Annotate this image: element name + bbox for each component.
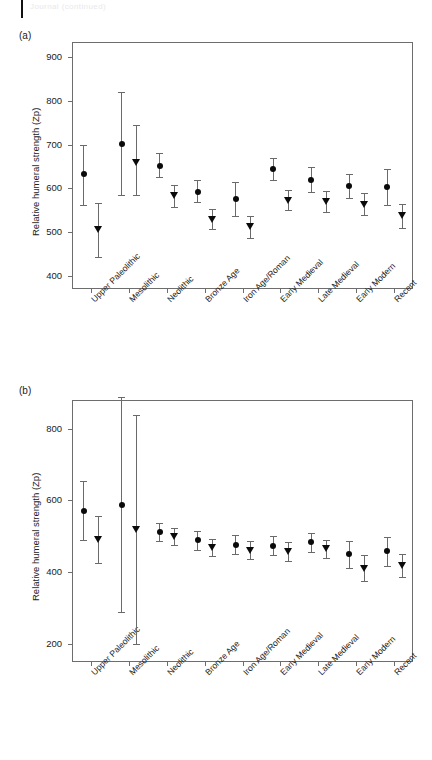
error-bar-cap-female [323, 540, 330, 541]
y-axis-tick-label: 200 [28, 638, 62, 649]
data-point-female-marker [360, 201, 368, 208]
error-bar-cap-female [361, 215, 368, 216]
panel-a-label: (a) [19, 30, 31, 41]
error-bar-cap-female [361, 555, 368, 556]
y-axis-tick-label: 600 [28, 182, 62, 193]
data-point-male-marker [81, 508, 87, 514]
error-bar-cap-female [247, 559, 254, 560]
error-bar-cap-female [285, 210, 292, 211]
x-axis-tick-mark [205, 289, 206, 293]
triangle-inner-fill [327, 552, 333, 556]
error-bar-cap-male [346, 568, 353, 569]
error-bar-cap-female [361, 581, 368, 582]
x-axis-tick-mark [243, 662, 244, 666]
y-axis-tick-label: 900 [28, 51, 62, 62]
data-point-female-marker [94, 536, 102, 543]
error-bar-cap-female [209, 539, 216, 540]
error-bar-cap-male [308, 167, 315, 168]
triangle-inner-fill [176, 199, 182, 203]
y-axis-tick-mark [68, 188, 72, 189]
y-axis-tick-mark [68, 232, 72, 233]
y-axis-tick-mark [68, 644, 72, 645]
triangle-inner-fill [365, 572, 371, 576]
error-bar-cap-male [232, 182, 239, 183]
triangle-inner-fill [214, 223, 220, 227]
y-axis-tick-label: 500 [28, 226, 62, 237]
triangle-inner-fill [100, 543, 106, 547]
y-axis-tick-label: 700 [28, 139, 62, 150]
error-bar-cap-female [285, 542, 292, 543]
triangle-inner-fill [138, 166, 144, 170]
data-point-male-marker [195, 537, 201, 543]
triangle-inner-fill [289, 204, 295, 208]
data-point-female-marker [170, 192, 178, 199]
y-axis-tick-mark [68, 429, 72, 430]
error-bar-cap-female [209, 556, 216, 557]
triangle-inner-fill [252, 230, 258, 234]
error-bar-cap-female [171, 185, 178, 186]
y-axis-tick-mark [68, 57, 72, 58]
error-bar-cap-male [346, 541, 353, 542]
error-bar-cap-female [133, 125, 140, 126]
data-point-female-marker [132, 159, 140, 166]
error-bar-cap-female [323, 191, 330, 192]
y-axis-tick-label: 800 [28, 423, 62, 434]
error-bar-cap-male [80, 481, 87, 482]
y-axis-tick-label: 400 [28, 566, 62, 577]
data-point-female-marker [322, 545, 330, 552]
error-bar-cap-female [285, 190, 292, 191]
error-bar-cap-female [247, 541, 254, 542]
error-bar-cap-female [133, 195, 140, 196]
data-point-female-marker [398, 212, 406, 219]
error-bar-cap-female [95, 203, 102, 204]
error-bar-cap-female [95, 516, 102, 517]
data-point-male-marker [119, 141, 125, 147]
data-point-female-marker [170, 533, 178, 540]
x-axis-tick-mark [243, 289, 244, 293]
data-point-female-marker [398, 562, 406, 569]
error-bar-cap-male [156, 541, 163, 542]
error-bar-cap-male [232, 554, 239, 555]
error-bar-cap-female [323, 558, 330, 559]
error-bar-cap-male [270, 536, 277, 537]
error-bar-cap-female [323, 212, 330, 213]
error-bar-cap-female [95, 563, 102, 564]
y-axis-tick-label: 800 [28, 95, 62, 106]
panel-b-plot-frame [72, 400, 413, 662]
x-axis-tick-mark [167, 662, 168, 666]
data-point-female-marker [246, 547, 254, 554]
data-point-male-marker [233, 542, 239, 548]
error-bar-cap-male [194, 531, 201, 532]
error-bar-cap-female [285, 561, 292, 562]
panel-a-plot-frame [72, 42, 413, 289]
error-bar-cap-female [247, 238, 254, 239]
error-bar-cap-female [399, 228, 406, 229]
error-bar-cap-male [80, 145, 87, 146]
error-bar-cap-male [384, 537, 391, 538]
error-bar-cap-male [270, 180, 277, 181]
data-point-male-marker [233, 196, 239, 202]
error-bar-cap-male [270, 555, 277, 556]
data-point-female-marker [94, 226, 102, 233]
data-point-male-marker [308, 177, 314, 183]
error-bar-cap-male [384, 169, 391, 170]
x-axis-tick-mark [205, 662, 206, 666]
triangle-inner-fill [214, 551, 220, 555]
triangle-inner-fill [176, 540, 182, 544]
error-bar-cap-male [80, 540, 87, 541]
error-bar-cap-female [209, 209, 216, 210]
error-bar-cap-female [399, 204, 406, 205]
error-bar-cap-male [156, 523, 163, 524]
data-point-female-marker [284, 548, 292, 555]
error-bar-cap-male [232, 216, 239, 217]
data-point-female-marker [132, 526, 140, 533]
data-point-male-marker [346, 183, 352, 189]
data-point-male-marker [119, 502, 125, 508]
data-point-female-marker [322, 198, 330, 205]
error-bar-cap-male [384, 205, 391, 206]
triangle-inner-fill [252, 554, 258, 558]
error-bar-cap-male [156, 153, 163, 154]
error-bar-cap-female [399, 577, 406, 578]
triangle-inner-fill [327, 205, 333, 209]
error-bar-cap-male [118, 612, 125, 613]
